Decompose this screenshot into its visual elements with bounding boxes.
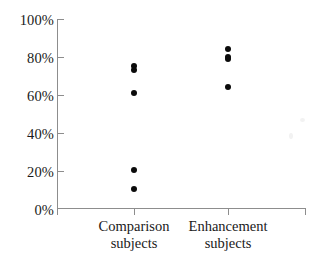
y-axis-label-40: 40%: [27, 127, 54, 142]
y-axis-line: [57, 19, 58, 209]
y-axis-label-20: 20%: [27, 165, 54, 180]
x-axis-tick-end: [305, 208, 306, 215]
y-axis-tick-100: [57, 19, 64, 20]
x-axis-label-enhancement-line2: subjects: [189, 235, 268, 252]
x-axis-tick-start: [57, 208, 58, 215]
data-point: [225, 56, 231, 62]
data-point: [131, 186, 137, 192]
scan-speckle-icon: [289, 133, 293, 139]
y-axis-tick-40: [57, 133, 64, 134]
y-axis-label-0: 0%: [34, 203, 54, 218]
scan-speckle-icon: [300, 118, 305, 122]
data-point: [131, 90, 137, 96]
y-axis-tick-20: [57, 171, 64, 172]
data-point: [225, 46, 231, 52]
y-axis-tick-60: [57, 95, 64, 96]
y-axis-label-100: 100%: [20, 13, 54, 28]
x-axis-label-comparison-line1: Comparison: [99, 218, 170, 235]
x-axis-label-comparison-line2: subjects: [99, 235, 170, 252]
x-axis-tick-comparison: [134, 208, 135, 215]
x-axis-label-enhancement: Enhancement subjects: [189, 218, 268, 252]
plot-area: 100% 80% 60% 40% 20% 0% Comparison subje…: [0, 0, 327, 273]
x-axis-label-enhancement-line1: Enhancement: [189, 218, 268, 235]
y-axis-label-80: 80%: [27, 51, 54, 66]
data-point: [131, 167, 137, 173]
x-axis-tick-enhancement: [228, 208, 229, 215]
y-axis-label-60: 60%: [27, 89, 54, 104]
x-axis-label-comparison: Comparison subjects: [99, 218, 170, 252]
scatter-plot-figure: 100% 80% 60% 40% 20% 0% Comparison subje…: [0, 0, 327, 273]
y-axis-tick-80: [57, 57, 64, 58]
x-axis-line: [57, 208, 306, 209]
data-point: [225, 84, 231, 90]
data-point: [131, 67, 137, 73]
